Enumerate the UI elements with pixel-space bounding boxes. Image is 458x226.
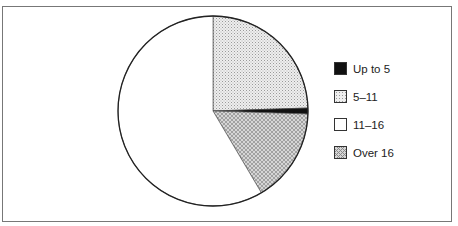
legend-label: 11–16 <box>353 119 384 131</box>
legend-item-5-11: 5–11 <box>334 90 378 103</box>
legend-item-up-to-5: Up to 5 <box>334 62 390 75</box>
legend-item-11-16: 11–16 <box>334 118 384 131</box>
pie-slices <box>118 16 308 206</box>
pie-chart <box>0 0 458 226</box>
pie-slice-5-11 <box>213 16 308 111</box>
swatch-white-icon <box>334 118 347 131</box>
legend-label: Over 16 <box>353 147 394 159</box>
swatch-black-icon <box>334 62 347 75</box>
swatch-dots-icon <box>334 90 347 103</box>
swatch-hatch-icon <box>334 146 347 159</box>
legend-item-over-16: Over 16 <box>334 146 394 159</box>
legend-label: Up to 5 <box>353 63 390 75</box>
legend-label: 5–11 <box>353 91 378 103</box>
